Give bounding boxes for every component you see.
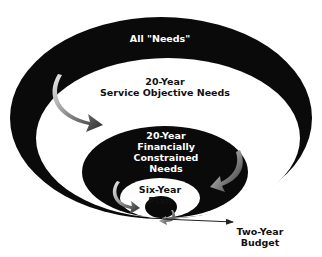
all-needs-label: All "Needs": [110, 33, 210, 44]
financially-constrained-line1: 20-Year: [116, 130, 216, 141]
financially-constrained-label: 20-Year Financially Constrained Needs: [116, 130, 216, 174]
service-objective-line1: 20-Year: [90, 76, 240, 87]
service-objective-label: 20-Year Service Objective Needs: [90, 76, 240, 98]
financially-constrained-line3: Constrained: [116, 152, 216, 163]
two-year-budget-line1: Two-Year: [232, 226, 288, 237]
financially-constrained-line4: Needs: [116, 163, 216, 174]
two-year-budget-label: Two-Year Budget: [232, 226, 288, 248]
financially-constrained-line2: Financially: [116, 141, 216, 152]
two-year-budget-pointer-icon: [163, 219, 233, 222]
six-year-plan-line1: Six-Year: [128, 184, 192, 195]
six-year-plan-line2: Plan: [128, 195, 192, 206]
six-year-plan-label: Six-Year Plan: [128, 184, 192, 206]
service-objective-line2: Service Objective Needs: [90, 87, 240, 98]
two-year-budget-line2: Budget: [232, 237, 288, 248]
